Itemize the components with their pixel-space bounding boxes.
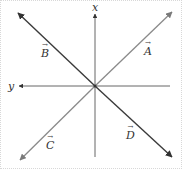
vector-d-label: → D <box>126 130 135 141</box>
vector-diagram <box>0 0 182 169</box>
vector-arrow-icon: → <box>41 42 49 49</box>
vector-arrow-icon: → <box>46 134 54 141</box>
vector-arrow-icon: → <box>126 124 135 131</box>
vector-d-arrow <box>95 86 172 157</box>
vector-b-label: → B <box>41 48 49 59</box>
vector-c-arrow <box>20 86 95 160</box>
vector-a-arrow <box>95 12 172 86</box>
y-axis-label: y <box>8 81 14 92</box>
origin-point <box>94 85 97 88</box>
x-axis-label: x <box>92 2 98 13</box>
vector-arrow-icon: → <box>144 40 152 47</box>
vector-c-label: → C <box>46 140 54 151</box>
vector-b-arrow <box>18 13 95 86</box>
vector-a-label: → A <box>144 46 152 57</box>
